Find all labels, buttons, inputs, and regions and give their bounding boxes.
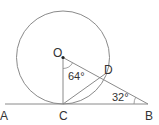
angle-label-o: 64° bbox=[68, 70, 85, 82]
label-a: A bbox=[0, 109, 8, 123]
geometry-diagram: O D A C B 64° 32° bbox=[0, 0, 159, 125]
label-b: B bbox=[145, 109, 153, 123]
angle-label-b: 32° bbox=[112, 91, 129, 103]
label-o: O bbox=[53, 46, 62, 60]
label-d: D bbox=[104, 63, 113, 77]
diagram-canvas: O D A C B 64° 32° bbox=[0, 0, 159, 125]
label-c: C bbox=[59, 109, 68, 123]
angle-arc-b bbox=[134, 97, 136, 104]
angle-arc-o bbox=[63, 63, 73, 69]
